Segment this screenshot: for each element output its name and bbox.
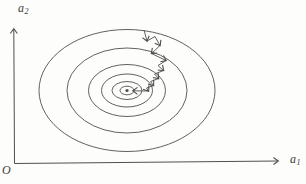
contour-ellipses <box>39 30 215 152</box>
descent-path <box>133 30 166 91</box>
x-axis-line <box>15 161 279 164</box>
y-axis-label: a2 <box>18 2 29 14</box>
descent-step-arrow <box>151 79 159 86</box>
y-axis-line <box>14 29 15 164</box>
descent-step-arrow <box>152 46 161 54</box>
diagram-canvas <box>0 0 306 184</box>
x-axis-label: a1 <box>290 153 301 165</box>
descent-step-arrow <box>144 30 147 41</box>
x-axis-label-sub: 1 <box>297 158 302 167</box>
minimum-point <box>125 89 128 92</box>
figure: a2 a1 O <box>0 0 306 184</box>
descent-step-arrow <box>155 71 164 79</box>
descent-step-arrow <box>158 61 166 71</box>
y-axis-label-sub: 2 <box>25 7 30 16</box>
coordinate-axes <box>14 29 278 164</box>
origin-label: O <box>2 164 11 176</box>
descent-step-arrow <box>147 37 160 46</box>
